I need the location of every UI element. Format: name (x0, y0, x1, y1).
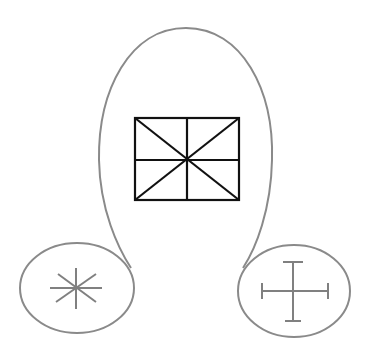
box-symbol (135, 118, 239, 200)
diagram-canvas (0, 0, 371, 354)
diagram-svg (0, 0, 371, 354)
asterisk-icon (50, 268, 102, 309)
capped-cross-icon (262, 262, 328, 321)
balloon-outline (99, 28, 272, 268)
